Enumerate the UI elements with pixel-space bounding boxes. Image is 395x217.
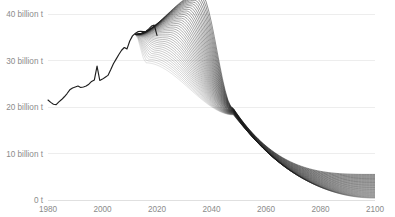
scenario-line xyxy=(135,34,375,196)
scenario-line xyxy=(135,0,375,174)
scenario-line xyxy=(135,34,375,195)
scenario-line xyxy=(135,9,375,182)
scenario-line xyxy=(135,13,375,183)
scenario-line xyxy=(135,34,375,194)
x-tick-label-2080: 2080 xyxy=(311,205,330,214)
scenario-line xyxy=(135,34,375,193)
scenario-line xyxy=(135,4,375,180)
scenario-line xyxy=(135,34,375,193)
scenario-lines-group xyxy=(135,0,375,198)
scenario-line xyxy=(135,34,375,196)
scenario-line xyxy=(135,0,375,176)
y-axis-tick-labels: 0 t10 billion t20 billion t30 billion t4… xyxy=(6,10,44,205)
scenario-line xyxy=(135,34,375,195)
y-tick-label-30: 30 billion t xyxy=(6,57,44,66)
y-tick-label-20: 20 billion t xyxy=(6,103,44,112)
scenario-line xyxy=(135,32,375,190)
scenario-line xyxy=(135,23,375,187)
scenario-line xyxy=(135,34,375,194)
scenario-line xyxy=(135,20,375,186)
scenario-line xyxy=(135,29,375,190)
x-tick-label-2040: 2040 xyxy=(202,205,221,214)
scenario-line xyxy=(135,2,375,179)
scenario-line xyxy=(135,34,375,191)
scenario-line xyxy=(135,0,375,177)
y-tick-label-40: 40 billion t xyxy=(6,10,44,19)
scenario-line xyxy=(135,18,375,185)
scenario-line xyxy=(135,0,375,175)
x-tick-label-1980: 1980 xyxy=(39,205,58,214)
x-axis-tick-labels: 1980200020202040206020802100 xyxy=(39,205,385,214)
scenario-line xyxy=(135,34,375,192)
x-tick-label-2020: 2020 xyxy=(148,205,167,214)
x-tick-label-2060: 2060 xyxy=(257,205,276,214)
scenario-line xyxy=(135,0,375,178)
x-tick-label-2100: 2100 xyxy=(366,205,385,214)
scenario-line xyxy=(135,34,375,191)
y-tick-label-10: 10 billion t xyxy=(6,150,44,159)
scenario-line xyxy=(135,7,375,181)
scenario-line xyxy=(135,27,375,189)
x-tick-label-2000: 2000 xyxy=(93,205,112,214)
emissions-scenario-chart: 0 t10 billion t20 billion t30 billion t4… xyxy=(0,0,395,217)
scenario-line xyxy=(135,15,375,184)
chart-plot-area: 0 t10 billion t20 billion t30 billion t4… xyxy=(0,0,395,217)
y-tick-label-0: 0 t xyxy=(34,196,44,205)
scenario-line xyxy=(135,6,375,181)
scenario-line xyxy=(135,34,375,197)
scenario-line xyxy=(135,34,375,196)
